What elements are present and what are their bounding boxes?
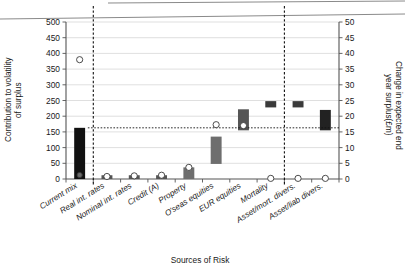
current-mix-base-dot xyxy=(77,172,82,177)
y-axis-left-tick-label: 400 xyxy=(46,48,60,58)
y-axis-right-tick-label: 20 xyxy=(345,111,355,121)
data-point-property xyxy=(186,164,192,170)
data-point-current-mix xyxy=(77,57,83,63)
y-axis-left-tick-label: 50 xyxy=(51,158,61,168)
bar-current-mix xyxy=(74,128,85,179)
y-axis-right-tick-label: 10 xyxy=(345,143,355,153)
y-axis-left-tick-label: 350 xyxy=(46,64,60,74)
y-axis-right-tick-label: 50 xyxy=(345,17,355,27)
y-axis-left-tick-label: 0 xyxy=(55,174,60,184)
y-axis-right-tick-label: 5 xyxy=(345,158,350,168)
data-point-asset-mort-divers xyxy=(295,175,301,181)
x-axis-title: Sources of Risk xyxy=(130,255,270,265)
y-axis-left-tick-label: 100 xyxy=(46,143,60,153)
y-axis-left-tick-label: 250 xyxy=(46,96,60,106)
data-point-nominal-int-rates xyxy=(131,173,137,179)
y-axis-right-tick-label: 30 xyxy=(345,80,355,90)
y-axis-left-tick-label: 300 xyxy=(46,80,60,90)
x-axis-category-label: Credit (A) xyxy=(126,181,161,207)
data-point-eur-equities xyxy=(240,123,246,129)
data-point-real-int-rates xyxy=(104,173,110,179)
y-axis-right-tick-label: 45 xyxy=(345,33,355,43)
y-axis-left-tick-label: 450 xyxy=(46,33,60,43)
bar-mortality xyxy=(265,101,276,107)
data-point-o-seas-equities xyxy=(213,122,219,128)
bar-asset-mort-divers xyxy=(293,101,304,107)
bar-o-seas-equities xyxy=(211,137,222,164)
y-axis-left-title: Contribution to volatility of surplus xyxy=(4,30,23,170)
chart-plot-area: 0501001502002503003504004505000510152025… xyxy=(0,0,405,278)
scan-edge-top xyxy=(108,1,405,3)
y-axis-right-tick-label: 40 xyxy=(345,48,355,58)
data-point-mortality xyxy=(268,175,274,181)
y-axis-right-tick-label: 0 xyxy=(345,174,350,184)
bar-asset-liab-divers xyxy=(320,110,331,130)
y-axis-right-tick-label: 25 xyxy=(345,96,355,106)
chart-figure: Contribution to volatility of surplus Ch… xyxy=(0,0,405,278)
y-axis-left-tick-label: 500 xyxy=(46,17,60,27)
y-axis-right-tick-label: 35 xyxy=(345,64,355,74)
y-axis-left-tick-label: 200 xyxy=(46,111,60,121)
y-axis-right-title: Change in expected end year surplus(£m) xyxy=(384,30,403,180)
y-axis-left-tick-label: 150 xyxy=(46,127,60,137)
data-point-credit-a xyxy=(158,172,164,178)
y-axis-right-tick-label: 15 xyxy=(345,127,355,137)
data-point-asset-liab-divers xyxy=(322,175,328,181)
